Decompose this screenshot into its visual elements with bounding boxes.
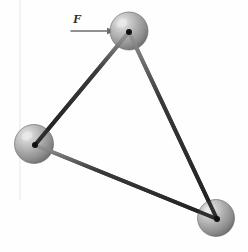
joint-bottom-right: [214, 216, 220, 222]
sphere-group: [15, 12, 235, 237]
joint-top: [126, 29, 132, 35]
rod-overlay-group: [35, 32, 217, 219]
figure-canvas: [0, 0, 248, 252]
joint-left: [32, 142, 38, 148]
force-arrow: [71, 28, 116, 34]
force-label: F: [73, 12, 82, 25]
rod-group: [35, 32, 217, 219]
rod-top-to-bottom-right-overlay: [129, 32, 217, 219]
rod-left-to-bottom-right-overlay: [35, 145, 217, 219]
joint-group: [32, 29, 220, 222]
physics-figure: F: [0, 0, 248, 252]
